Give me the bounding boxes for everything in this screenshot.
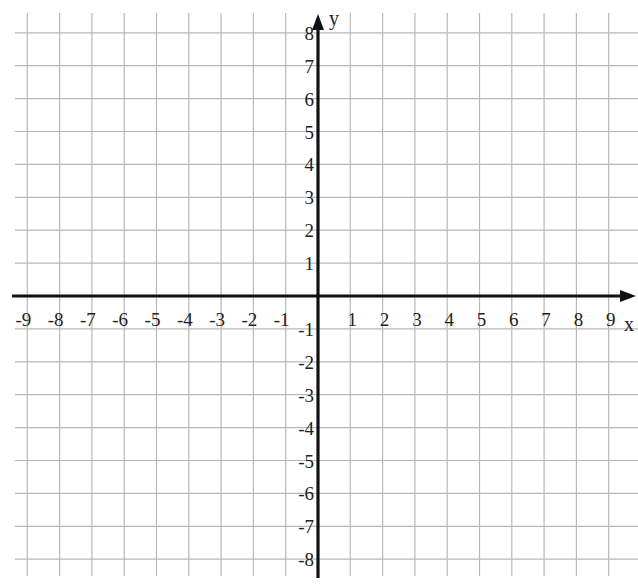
x-tick-label: 3 <box>412 309 422 330</box>
x-tick-label: 5 <box>477 309 487 330</box>
y-tick-label: -1 <box>298 319 314 340</box>
y-axis-label: y <box>329 7 339 30</box>
y-tick-label: 1 <box>305 253 315 274</box>
x-tick-label: 2 <box>380 309 390 330</box>
x-tick-label: 4 <box>444 309 454 330</box>
coordinate-plane: -9-8-7-6-5-4-3-2-1123456789 87654321-1-2… <box>0 0 638 588</box>
y-tick-label: 3 <box>305 187 315 208</box>
x-tick-label: -3 <box>209 309 225 330</box>
x-tick-label: 1 <box>348 309 358 330</box>
x-tick-label: -8 <box>48 309 64 330</box>
x-tick-label: 8 <box>574 309 584 330</box>
x-tick-label: 7 <box>541 309 551 330</box>
y-tick-label: -3 <box>298 385 314 406</box>
y-tick-label: -8 <box>298 549 314 570</box>
y-tick-label: -5 <box>298 451 314 472</box>
y-tick-label: 2 <box>305 220 315 241</box>
x-tick-label: -9 <box>15 309 31 330</box>
x-tick-label: -7 <box>80 309 96 330</box>
y-tick-label: -4 <box>298 418 314 439</box>
x-tick-label: -4 <box>177 309 193 330</box>
y-tick-label: 6 <box>305 89 315 110</box>
x-tick-label: -5 <box>145 309 161 330</box>
x-tick-label: -6 <box>112 309 128 330</box>
x-tick-label: -2 <box>241 309 257 330</box>
x-tick-labels: -9-8-7-6-5-4-3-2-1123456789 <box>15 309 615 330</box>
y-tick-label: -7 <box>298 516 314 537</box>
x-tick-label: 9 <box>606 309 616 330</box>
y-tick-label: 8 <box>305 23 315 44</box>
y-tick-label: -6 <box>298 483 314 504</box>
x-tick-label: -1 <box>274 309 290 330</box>
y-tick-label: 5 <box>305 122 315 143</box>
x-axis-label: x <box>624 313 634 335</box>
y-tick-label: 7 <box>305 56 315 77</box>
y-tick-label: -2 <box>298 352 314 373</box>
y-tick-label: 4 <box>305 154 315 175</box>
x-axis-arrow-icon <box>620 290 636 302</box>
x-tick-label: 6 <box>509 309 519 330</box>
